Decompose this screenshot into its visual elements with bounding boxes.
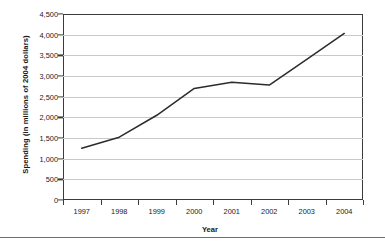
x-axis-tick-mark xyxy=(101,200,102,205)
y-axis-tick-label: 3,500 xyxy=(0,51,58,60)
y-axis-tick-label: 3,000 xyxy=(0,72,58,81)
x-axis-title: Year xyxy=(55,225,365,234)
y-axis-tick-label: 1,500 xyxy=(0,134,58,143)
x-axis-tick-mark xyxy=(326,200,327,205)
y-axis-tick-label: 500 xyxy=(0,175,58,184)
y-axis-tick-label: 0 xyxy=(0,196,58,205)
x-axis-tick-label: 1998 xyxy=(99,207,139,216)
y-axis-tick-label: 2,500 xyxy=(0,92,58,101)
y-axis-tick-label: 1,000 xyxy=(0,154,58,163)
x-axis-tick-label: 2002 xyxy=(249,207,289,216)
bottom-divider xyxy=(0,237,385,238)
x-axis-tick-label: 2000 xyxy=(174,207,214,216)
x-axis-tick-mark xyxy=(138,200,139,205)
y-axis-tick-label: 2,000 xyxy=(0,113,58,122)
x-axis-tick-label: 2004 xyxy=(324,207,364,216)
x-axis-tick-mark xyxy=(176,200,177,205)
x-axis-tick-label: 1997 xyxy=(62,207,102,216)
x-axis-tick-mark xyxy=(251,200,252,205)
y-axis-tick-label: 4,500 xyxy=(0,10,58,19)
x-axis-tick-mark xyxy=(288,200,289,205)
x-axis-tick-mark xyxy=(363,200,364,205)
x-axis-tick-mark xyxy=(63,200,64,205)
x-axis-tick-label: 1999 xyxy=(137,207,177,216)
x-axis-tick-label: 2001 xyxy=(212,207,252,216)
y-axis-tick-label: 4,000 xyxy=(0,30,58,39)
x-axis-tick-label: 2003 xyxy=(287,207,327,216)
data-line-group xyxy=(63,14,363,200)
series-line-spending xyxy=(82,33,345,148)
x-axis-tick-mark xyxy=(213,200,214,205)
chart-figure: Spending (in millions of 2004 dollars) 0… xyxy=(0,0,385,243)
